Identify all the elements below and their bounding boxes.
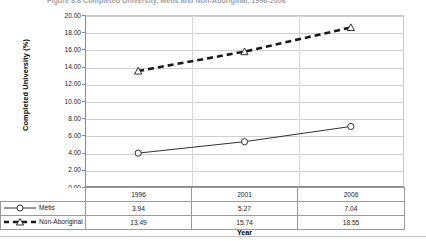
data-point-marker-circle <box>348 123 354 129</box>
legend-cell-metis: Métis <box>1 202 86 216</box>
table-header-row: 199620012006 <box>1 188 405 202</box>
y-axis-tick-label: 16.00 <box>43 46 81 53</box>
legend-key-non-aboriginal <box>3 216 37 228</box>
legend-cell-non-aboriginal: Non-Aboriginal <box>1 216 86 230</box>
legend-label: Métis <box>39 202 55 214</box>
data-point-marker-circle <box>241 139 247 145</box>
page-divider <box>0 236 426 237</box>
chart-data-table: 199620012006Métis3.945.277.04Non-Aborigi… <box>0 187 405 230</box>
table-header-cell: 2001 <box>192 188 298 202</box>
series-2 <box>135 24 355 74</box>
y-axis-tick-label: 2.00 <box>43 166 81 173</box>
series-1 <box>135 123 354 156</box>
table-row: Métis3.945.277.04 <box>1 202 405 216</box>
y-axis-tick-label: 10.00 <box>43 98 81 105</box>
y-axis-tick-label: 8.00 <box>43 115 81 122</box>
series-overlay <box>85 15 404 187</box>
y-axis-tick-label: 20.00 <box>43 12 81 19</box>
y-axis-tick-label: 18.00 <box>43 29 81 36</box>
legend-key-metis <box>3 202 37 214</box>
y-axis-tick-label: 6.00 <box>43 132 81 139</box>
legend-label: Non-Aboriginal <box>39 216 83 228</box>
table-data-cell: 7.04 <box>298 202 405 216</box>
table-header-cell: 2006 <box>298 188 405 202</box>
y-axis-tick-label: 14.00 <box>43 63 81 70</box>
table-data-cell: 5.27 <box>192 202 298 216</box>
table-data-cell: 3.94 <box>86 202 192 216</box>
y-axis-tick-label: 12.00 <box>43 80 81 87</box>
data-point-marker-circle <box>135 150 141 156</box>
table-corner-cell <box>1 188 86 202</box>
y-axis-tick-label: 4.00 <box>43 149 81 156</box>
table-header-cell: 1996 <box>86 188 192 202</box>
